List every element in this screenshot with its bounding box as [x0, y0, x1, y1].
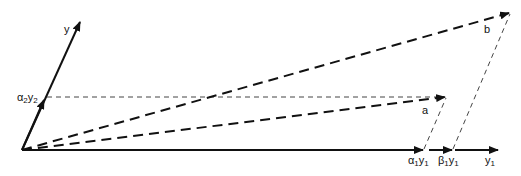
vector-a-label: a [422, 104, 429, 116]
beta1y1-label: β1y1 [438, 154, 459, 168]
alpha2y2-arrow [22, 100, 44, 150]
vector-b-label: b [484, 23, 490, 35]
vector-diagram: y α2y2 a b α1y1 β1y1 y1 [0, 0, 521, 176]
vector-a [22, 97, 445, 150]
vector-b [22, 13, 509, 150]
alpha2y2-label: α2y2 [17, 91, 38, 105]
alpha1y1-label: α1y1 [408, 154, 429, 168]
y1-label: y1 [485, 154, 496, 168]
b-parallel-line [453, 14, 510, 149]
y-axis-label: y [64, 23, 70, 35]
